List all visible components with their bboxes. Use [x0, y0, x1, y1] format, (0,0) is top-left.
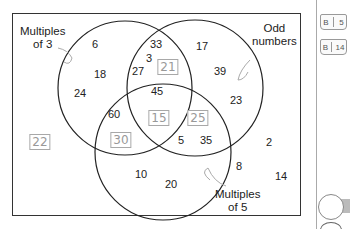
- bookmark-button[interactable]: B 14: [320, 39, 347, 55]
- pencil-mark: [238, 60, 250, 80]
- handwritten-answer: 30: [110, 132, 131, 148]
- margin-line: [316, 0, 317, 229]
- book-icon-page: 14: [335, 43, 344, 52]
- handwritten-answer: 21: [157, 59, 178, 75]
- handwritten-answer: 25: [187, 110, 208, 126]
- region-value: 23: [230, 94, 242, 106]
- region-value: 27: [132, 65, 144, 77]
- bookmark-button[interactable]: B 5: [320, 14, 347, 30]
- book-icon-page: 5: [339, 18, 343, 27]
- book-icon-letter: B: [323, 18, 328, 27]
- region-value: 33: [150, 38, 162, 50]
- book-icon-letter: B: [323, 43, 328, 52]
- label-odd-numbers: Oddnumbers: [252, 22, 297, 48]
- circle-marker-icon: [318, 194, 344, 220]
- region-value: 60: [108, 108, 120, 120]
- region-value: 14: [275, 170, 287, 182]
- region-value: 8: [236, 160, 242, 172]
- handwritten-answer: 22: [29, 134, 50, 150]
- region-value: 10: [135, 168, 147, 180]
- region-value: 24: [74, 87, 86, 99]
- region-value: 5: [178, 134, 184, 146]
- book-spine: [333, 17, 334, 27]
- circle-multiples-of-5: [95, 84, 231, 220]
- region-value: 45: [151, 85, 163, 97]
- region-value: 35: [200, 134, 212, 146]
- region-value: 2: [266, 136, 272, 148]
- region-value: 20: [165, 178, 177, 190]
- region-value: 17: [196, 40, 208, 52]
- label-multiples-of-5: Multiplesof 5: [215, 188, 260, 214]
- label-multiples-of-3: Multiplesof 3: [20, 25, 65, 51]
- region-value: 18: [94, 68, 106, 80]
- book-spine: [331, 42, 332, 52]
- region-value: 3: [146, 52, 152, 64]
- region-value: 6: [92, 38, 98, 50]
- region-value: 39: [214, 65, 226, 77]
- handwritten-answer: 15: [148, 110, 169, 126]
